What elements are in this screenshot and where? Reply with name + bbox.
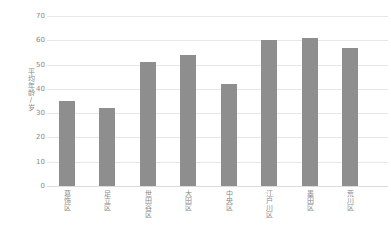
gridline	[47, 65, 388, 66]
bar	[302, 38, 318, 186]
gridline	[47, 162, 388, 163]
x-axis-category-label: 葛饰区	[63, 190, 71, 211]
y-axis-tick-label: 20	[21, 134, 45, 141]
y-axis-tick-label: 10	[21, 159, 45, 166]
x-axis-category-label: 足立区	[103, 190, 111, 211]
bar	[99, 108, 115, 186]
bar	[180, 55, 196, 186]
gridline	[47, 113, 388, 114]
plot-area: 平均年龄/岁 010203040506070葛饰区足立区世田谷区大田区中央区江户…	[0, 0, 391, 230]
gridline	[47, 137, 388, 138]
x-axis-category-label: 墨田区	[306, 190, 314, 211]
gridline	[47, 89, 388, 90]
gridline	[47, 16, 388, 17]
gridline	[47, 40, 388, 41]
y-axis-tick-label: 30	[21, 110, 45, 117]
bar	[140, 62, 156, 186]
bar	[261, 40, 277, 186]
bar	[342, 48, 358, 186]
bar	[59, 101, 75, 186]
y-axis-tick-label: 60	[21, 37, 45, 44]
x-axis-category-label: 世田谷区	[144, 190, 152, 218]
y-axis-tick-label: 0	[21, 183, 45, 190]
y-axis-tick-label: 40	[21, 86, 45, 93]
gridline	[47, 186, 388, 187]
bar	[221, 84, 237, 186]
x-axis-category-label: 江户川区	[265, 190, 273, 218]
y-axis-tick-label: 70	[21, 13, 45, 20]
bar-chart: 平均年龄/岁 010203040506070葛饰区足立区世田谷区大田区中央区江户…	[0, 0, 391, 230]
x-axis-category-label: 中央区	[225, 190, 233, 211]
x-axis-category-label: 荒川区	[346, 190, 354, 211]
x-axis-category-label: 大田区	[184, 190, 192, 211]
y-axis-tick-label: 50	[21, 62, 45, 69]
